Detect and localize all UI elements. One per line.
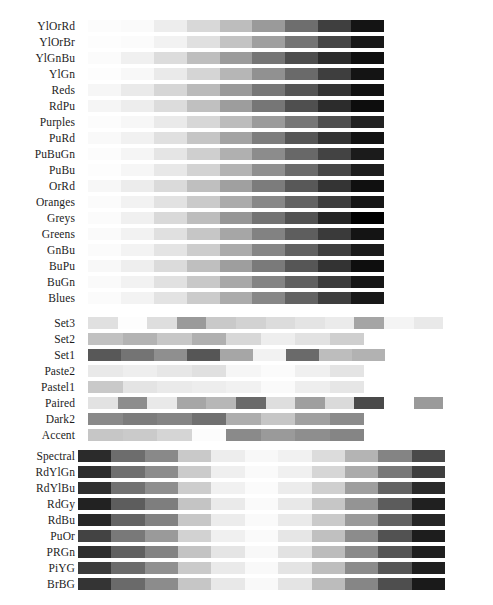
colormap-swatch-bar[interactable]	[88, 148, 384, 160]
colormap-row-label: PiYG	[0, 560, 75, 576]
colormap-swatch-bar[interactable]	[88, 429, 364, 441]
colormap-swatch	[88, 36, 121, 48]
colormap-row[interactable]: Accent	[0, 427, 493, 443]
colormap-swatch-bar[interactable]	[88, 228, 384, 240]
colormap-row[interactable]: Dark2	[0, 411, 493, 427]
colormap-swatch	[312, 530, 345, 542]
colormap-swatch	[192, 381, 227, 393]
colormap-row[interactable]: Spectral	[0, 448, 493, 464]
colormap-swatch	[412, 514, 445, 526]
colormap-row[interactable]: Pastel1	[0, 379, 493, 395]
colormap-swatch	[312, 482, 345, 494]
colormap-row[interactable]: RdBu	[0, 512, 493, 528]
colormap-swatch	[121, 180, 154, 192]
colormap-swatch	[211, 498, 244, 510]
colormap-swatch	[187, 180, 220, 192]
colormap-swatch	[252, 148, 285, 160]
colormap-row[interactable]: Blues	[0, 290, 493, 306]
colormap-row[interactable]: Set3	[0, 315, 493, 331]
colormap-swatch	[351, 196, 384, 208]
colormap-swatch-bar[interactable]	[88, 397, 443, 409]
colormap-swatch-bar[interactable]	[88, 20, 384, 32]
colormap-row[interactable]: YlOrBr	[0, 34, 493, 50]
colormap-swatch-bar[interactable]	[88, 180, 384, 192]
colormap-swatch	[123, 381, 158, 393]
colormap-swatch-bar[interactable]	[88, 413, 364, 425]
colormap-swatch-bar[interactable]	[88, 36, 384, 48]
colormap-swatch	[312, 466, 345, 478]
colormap-row-label: PuRd	[0, 130, 75, 146]
colormap-row[interactable]: OrRd	[0, 178, 493, 194]
colormap-swatch-bar[interactable]	[88, 164, 384, 176]
colormap-row[interactable]: BrBG	[0, 576, 493, 592]
colormap-swatch-bar[interactable]	[88, 292, 384, 304]
colormap-row[interactable]: PuRd	[0, 130, 493, 146]
colormap-swatch-bar[interactable]	[78, 546, 445, 558]
colormap-row[interactable]: RdYlGn	[0, 464, 493, 480]
colormap-row[interactable]: BuPu	[0, 258, 493, 274]
colormap-row[interactable]: Paste2	[0, 363, 493, 379]
colormap-row[interactable]: PuBu	[0, 162, 493, 178]
colormap-row[interactable]: Set2	[0, 331, 493, 347]
colormap-swatch	[252, 164, 285, 176]
colormap-swatch	[121, 212, 154, 224]
colormap-row[interactable]: Set1	[0, 347, 493, 363]
colormap-row[interactable]: Oranges	[0, 194, 493, 210]
colormap-row[interactable]: PRGn	[0, 544, 493, 560]
colormap-swatch-bar[interactable]	[88, 349, 385, 361]
colormap-swatch	[252, 276, 285, 288]
colormap-swatch	[211, 546, 244, 558]
colormap-swatch	[312, 546, 345, 558]
colormap-swatch	[145, 498, 178, 510]
colormap-swatch	[192, 333, 227, 345]
colormap-swatch	[121, 68, 154, 80]
colormap-swatch	[330, 413, 365, 425]
colormap-swatch-bar[interactable]	[78, 562, 445, 574]
colormap-swatch-bar[interactable]	[88, 276, 384, 288]
colormap-swatch-bar[interactable]	[88, 212, 384, 224]
colormap-row[interactable]: YlOrRd	[0, 18, 493, 34]
colormap-swatch-bar[interactable]	[88, 116, 384, 128]
colormap-row[interactable]: RdYlBu	[0, 480, 493, 496]
colormap-swatch	[154, 349, 187, 361]
colormap-row[interactable]: Greens	[0, 226, 493, 242]
colormap-swatch-bar[interactable]	[88, 132, 384, 144]
colormap-swatch-bar[interactable]	[88, 365, 364, 377]
colormap-row[interactable]: Paired	[0, 395, 493, 411]
colormap-swatch-bar[interactable]	[78, 450, 445, 462]
colormap-row[interactable]: Purples	[0, 114, 493, 130]
colormap-row[interactable]: Greys	[0, 210, 493, 226]
colormap-swatch-bar[interactable]	[88, 84, 384, 96]
colormap-swatch-bar[interactable]	[88, 260, 384, 272]
colormap-swatch-bar[interactable]	[88, 317, 443, 329]
colormap-row[interactable]: PuOr	[0, 528, 493, 544]
colormap-row[interactable]: YlGn	[0, 66, 493, 82]
colormap-swatch-bar[interactable]	[78, 466, 445, 478]
colormap-row[interactable]: BuGn	[0, 274, 493, 290]
colormap-swatch-bar[interactable]	[88, 196, 384, 208]
colormap-swatch-bar[interactable]	[88, 68, 384, 80]
colormap-row[interactable]: GnBu	[0, 242, 493, 258]
colormap-row[interactable]: YlGnBu	[0, 50, 493, 66]
colormap-row[interactable]: RdGy	[0, 496, 493, 512]
colormap-swatch-bar[interactable]	[78, 578, 445, 590]
colormap-row[interactable]: RdPu	[0, 98, 493, 114]
colormap-swatch-bar[interactable]	[78, 482, 445, 494]
colormap-swatch-bar[interactable]	[88, 100, 384, 112]
colormap-swatch	[121, 116, 154, 128]
colormap-swatch-bar[interactable]	[88, 381, 364, 393]
colormap-swatch	[88, 244, 121, 256]
colormap-swatch-bar[interactable]	[88, 52, 384, 64]
colormap-swatch-bar[interactable]	[78, 498, 445, 510]
colormap-swatch	[154, 276, 187, 288]
colormap-swatch-bar[interactable]	[88, 333, 364, 345]
colormap-row[interactable]: PuBuGn	[0, 146, 493, 162]
colormap-swatch	[88, 381, 123, 393]
colormap-swatch-bar[interactable]	[78, 530, 445, 542]
colormap-row[interactable]: PiYG	[0, 560, 493, 576]
colormap-swatch-bar[interactable]	[78, 514, 445, 526]
colormap-swatch	[384, 397, 414, 409]
colormap-swatch-bar[interactable]	[88, 244, 384, 256]
colormap-swatch	[252, 36, 285, 48]
colormap-row[interactable]: Reds	[0, 82, 493, 98]
